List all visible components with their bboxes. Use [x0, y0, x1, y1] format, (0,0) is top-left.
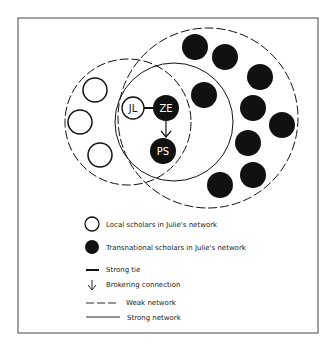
legend-item-local: Local scholars in Julie's network — [85, 217, 218, 231]
transnational-scholar-node — [207, 172, 233, 198]
open-circle-icon — [85, 217, 99, 231]
local-scholar-node — [88, 143, 112, 167]
node-label: ZE — [159, 103, 172, 114]
legend-item-strong-tie: Strong tie — [86, 266, 140, 274]
local-scholar-nodes — [68, 78, 112, 167]
transnational-scholar-nodes — [182, 34, 295, 198]
node-label: PS — [157, 146, 169, 157]
brokering-arrow-icon — [161, 121, 171, 137]
local-scholar-node — [68, 110, 92, 134]
transnational-scholar-node — [240, 95, 266, 121]
legend-item-transnational: Transnational scholars in Julie's networ… — [85, 240, 247, 254]
legend-item-strong-network: Strong network — [86, 314, 182, 322]
transnational-scholar-node — [235, 130, 261, 156]
network-diagram: JLZEPS Local scholars in Julie's network… — [0, 0, 333, 346]
legend-label: Transnational scholars in Julie's networ… — [105, 244, 247, 252]
named-nodes: JLZEPS — [122, 95, 179, 164]
node-ps: PS — [150, 138, 176, 164]
legend-label: Strong tie — [106, 266, 140, 274]
legend-label: Strong network — [127, 314, 182, 322]
legend-label: Local scholars in Julie's network — [106, 221, 218, 229]
transnational-scholar-node — [240, 162, 266, 188]
legend: Local scholars in Julie's network Transn… — [85, 217, 247, 322]
strong-network — [115, 63, 233, 181]
filled-circle-icon — [85, 240, 99, 254]
node-label: JL — [128, 103, 138, 114]
transnational-scholar-node — [191, 82, 217, 108]
transnational-scholar-node — [269, 112, 295, 138]
legend-label: Weak network — [126, 299, 177, 307]
transnational-scholar-node — [182, 34, 208, 60]
legend-item-brokering: Brokering connection — [88, 280, 180, 290]
down-arrow-icon — [88, 280, 96, 290]
local-scholar-node — [83, 78, 107, 102]
transnational-scholar-node — [212, 44, 238, 70]
node-ze: ZE — [153, 95, 179, 121]
legend-label: Brokering connection — [106, 281, 180, 289]
node-jl: JL — [122, 97, 144, 119]
transnational-scholar-node — [247, 64, 273, 90]
legend-item-weak-network: Weak network — [86, 299, 177, 307]
